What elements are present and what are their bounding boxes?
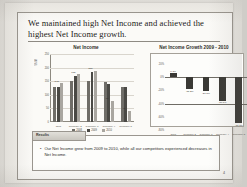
chart-left-legend-item: 2010	[102, 129, 112, 132]
chart-right-reference-line	[165, 104, 242, 105]
page-number: 4	[223, 171, 225, 175]
chart-right-y-tick: -20%	[158, 89, 164, 92]
results-tab-label: Results	[36, 133, 49, 137]
chart-right-data-label: -70.1%	[235, 124, 242, 127]
chart-left-data-label: 42	[122, 107, 125, 110]
slide-title: We maintained high Net Income and achiev…	[28, 18, 220, 40]
chart-left-bar	[128, 111, 131, 122]
chart-left-bar	[74, 76, 77, 122]
chart-left-category-label: Company 4	[102, 125, 115, 128]
chart-left-data-label: 78	[106, 97, 109, 100]
chart-left-bar	[111, 101, 114, 122]
chart-left-y-tick: 150	[45, 80, 49, 83]
chart-right-bar	[235, 77, 242, 123]
chart-left-bar	[107, 84, 110, 122]
chart-right-y-tick: -60%	[158, 115, 164, 118]
list-item: • Our Net Income grew from 2009 to 2010,…	[40, 146, 212, 158]
chart-right-plot-area: 20%0%-20%-40%-60%-80%6.3%Ours-18.2%Compa…	[165, 64, 242, 130]
chart-left-gridline	[50, 54, 134, 55]
legend-swatch-icon	[87, 129, 90, 131]
chart-left-legend-item: 2009	[87, 129, 97, 132]
chart-right-y-tick: -80%	[158, 129, 164, 132]
chart-left-bar	[53, 87, 56, 122]
chart-left-bar	[104, 82, 107, 122]
chart-left-bar	[57, 87, 60, 122]
results-callout: Results • Our Net Income grew from 2009 …	[32, 135, 220, 171]
chart-right-y-tick: -40%	[158, 102, 164, 105]
chart-left-data-label: 175	[71, 71, 75, 74]
chart-right-frame: 20%0%-20%-40%-60%-80%6.3%Ours-18.2%Compa…	[150, 53, 242, 127]
presentation-slide: We maintained high Net Income and achiev…	[17, 12, 233, 180]
chart-net-income-growth: Net Income Growth 2009 - 2010 20%0%-20%-…	[142, 45, 242, 141]
chart-left-bar	[121, 87, 124, 122]
chart-right-data-label: -18.2%	[186, 90, 194, 93]
chart-right-data-label: -21.3%	[202, 92, 210, 95]
chart-left-category-label: Company 2	[69, 125, 82, 128]
chart-right-category-label: Company 5	[232, 133, 242, 136]
chart-left-y-tick: 0	[48, 121, 49, 124]
chart-left-y-axis-label: $MM	[35, 59, 38, 65]
paper-sheet: We maintained high Net Income and achiev…	[5, 3, 233, 183]
chart-left-y-tick: 250	[45, 53, 49, 56]
chart-right-bar	[203, 77, 210, 91]
chart-right-bar	[170, 73, 177, 77]
chart-left-title: Net Income	[34, 45, 138, 50]
chart-right-y-tick: 0%	[160, 76, 164, 79]
chart-left-category-label: Company 5	[119, 125, 132, 128]
chart-left-data-label: 188	[88, 67, 92, 70]
results-tab: Results	[32, 131, 86, 141]
legend-swatch-icon	[102, 129, 105, 131]
chart-left-bar	[60, 83, 63, 122]
chart-left-data-label: 143	[55, 80, 59, 83]
chart-left-y-axis	[50, 54, 51, 122]
results-bullet-text: Our Net Income grew from 2009 to 2010, w…	[44, 146, 212, 158]
scanned-page: We maintained high Net Income and achiev…	[0, 0, 242, 187]
chart-left-bar	[91, 72, 94, 122]
bullet-icon: •	[40, 146, 41, 158]
chart-left-plot-area: 050100150200250143Ours175Company 2188Com…	[50, 54, 134, 122]
chart-right-data-label: -36.1%	[218, 101, 226, 104]
chart-left-bar	[70, 81, 73, 122]
legend-label: 2009	[91, 129, 97, 132]
chart-right-bar	[186, 77, 193, 89]
chart-left-bar	[77, 74, 80, 122]
chart-left-category-label: Company 3	[86, 125, 99, 128]
chart-left-y-tick: 100	[45, 93, 49, 96]
chart-right-data-label: 6.3%	[170, 70, 176, 73]
title-divider	[28, 41, 220, 42]
chart-left-bar	[94, 71, 97, 122]
chart-left-category-label: Ours	[56, 125, 61, 128]
legend-label: 2010	[106, 129, 112, 132]
chart-left-y-tick: 200	[45, 66, 49, 69]
chart-left-bar	[87, 81, 90, 122]
chart-right-title: Net Income Growth 2009 - 2010	[142, 45, 242, 50]
chart-net-income: Net Income $MM 050100150200250143Ours175…	[34, 45, 138, 141]
chart-left-y-tick: 50	[46, 107, 49, 110]
chart-left-bar	[124, 87, 127, 122]
chart-right-y-tick: 20%	[159, 63, 164, 66]
chart-right-bar	[219, 77, 226, 101]
